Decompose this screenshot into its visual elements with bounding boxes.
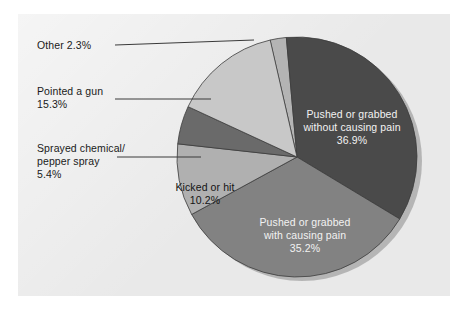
pie-label-pushed-with-pain: Pushed or grabbed with causing pain 35.2… <box>245 216 365 255</box>
pie-label-kicked-or-hit: Kicked or hit 10.2% <box>163 181 247 207</box>
chart-figure: Other 2.3% Pointed a gun 15.3% Sprayed c… <box>0 0 468 317</box>
pie-label-pushed-without-pain: Pushed or grabbed without causing pain 3… <box>290 108 414 147</box>
pie-label-pointed-a-gun: Pointed a gun 15.3% <box>37 85 103 111</box>
leader-line-other <box>115 40 254 45</box>
pie-label-sprayed-chemical: Sprayed chemical/ pepper spray 5.4% <box>37 142 125 181</box>
pie-label-other: Other 2.3% <box>37 39 91 52</box>
